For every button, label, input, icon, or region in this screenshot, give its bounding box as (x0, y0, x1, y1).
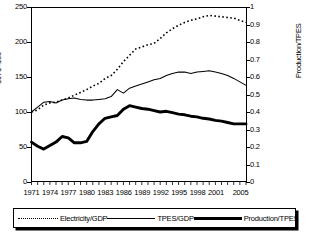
series-layer (0, 0, 311, 235)
legend-item-production-tpes: Production/TPES (194, 214, 299, 223)
dotted-line-swatch-icon (18, 218, 58, 219)
series-line-production-tpes (32, 106, 247, 149)
thin-line-swatch-icon (107, 218, 155, 219)
series-line-electricity-gdp (32, 15, 247, 112)
legend-label-production-tpes: Production/TPES (244, 214, 299, 223)
x-axis-tickmarks (32, 182, 247, 185)
chart-container: 1971=100 Production/TPES 0 50 100 150 20… (0, 0, 311, 235)
series-line-tpes-gdp (32, 71, 247, 112)
legend-label-tpes-gdp: TPES/GDP (157, 214, 193, 223)
chart-legend: Electricity/GDP TPES/GDP Production/TPES (13, 208, 296, 228)
legend-item-tpes-gdp: TPES/GDP (107, 214, 193, 223)
legend-item-electricity-gdp: Electricity/GDP (18, 214, 107, 223)
legend-label-electricity-gdp: Electricity/GDP (60, 214, 107, 223)
thick-line-swatch-icon (194, 217, 242, 220)
